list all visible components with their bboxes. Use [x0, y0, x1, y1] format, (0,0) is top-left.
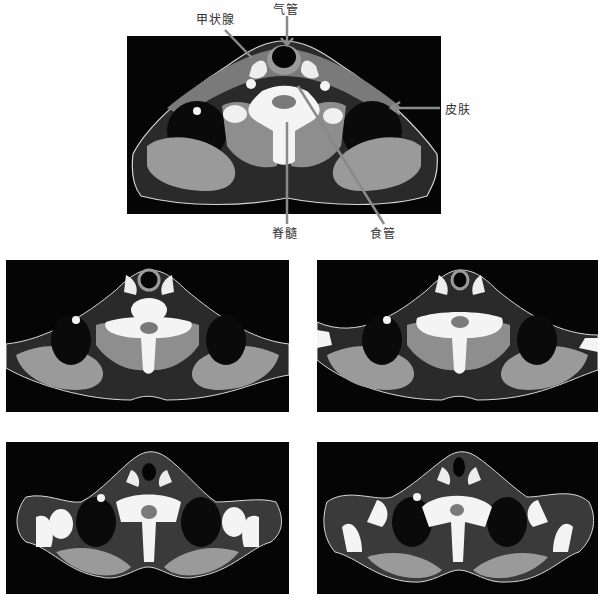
ct-panel-row3-right — [317, 442, 598, 594]
ct-image-row2-left — [6, 260, 289, 412]
ct-image-main — [127, 36, 441, 214]
label-trachea: 气管 — [273, 0, 299, 17]
label-thyroid: 甲状腺 — [196, 10, 235, 27]
label-spinal-cord: 脊髓 — [272, 224, 298, 241]
label-esophagus: 食管 — [370, 224, 396, 241]
ct-panel-main — [127, 36, 441, 214]
ct-panel-row3-left — [6, 442, 289, 594]
ct-panel-row2-right — [317, 260, 598, 412]
ct-panel-row2-left — [6, 260, 289, 412]
ct-image-row3-left — [6, 442, 289, 594]
ct-image-row2-right — [317, 260, 598, 412]
ct-image-row3-right — [317, 442, 598, 594]
label-skin: 皮肤 — [445, 100, 471, 117]
